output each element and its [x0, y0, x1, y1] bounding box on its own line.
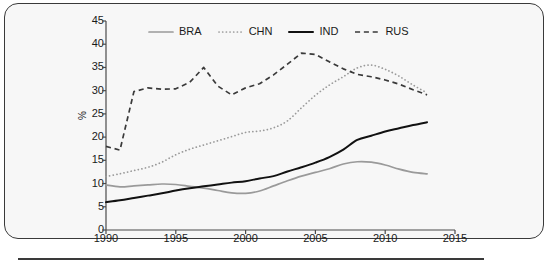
x-tick-marks [106, 230, 455, 234]
footer-divider [18, 258, 484, 260]
data-series-group [106, 53, 427, 202]
series-line-chn [106, 65, 427, 177]
series-line-ind [106, 122, 427, 202]
axis-lines [106, 21, 455, 230]
